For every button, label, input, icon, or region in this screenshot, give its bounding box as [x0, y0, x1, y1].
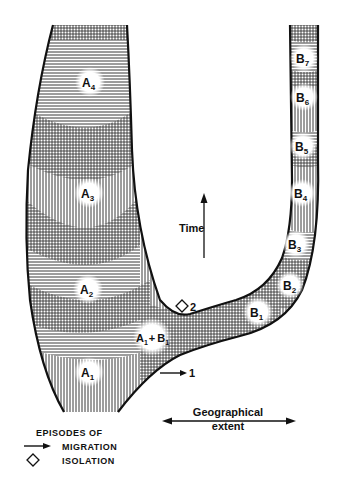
svg-text:2: 2 — [190, 301, 196, 313]
diamond-icon — [27, 454, 39, 466]
isolation-event-2: 2 — [176, 300, 196, 313]
arrow-right-icon — [43, 443, 51, 449]
legend-icons — [24, 443, 51, 466]
legend-label-isolation: ISOLATION — [62, 456, 115, 466]
time-axis-label: Time — [179, 222, 204, 234]
geographic-axis-label: Geographical extent — [160, 406, 296, 432]
diamond-icon — [176, 300, 188, 312]
legend-title: EPISODES OF — [36, 428, 103, 438]
label-junction-a1-b1: A1+B1 — [136, 332, 169, 346]
svg-text:1: 1 — [189, 367, 195, 379]
geo-label-line1: Geographical — [160, 406, 296, 418]
arrow-up-icon — [201, 193, 208, 203]
migration-event-1: 1 — [160, 367, 195, 379]
arrow-right-icon — [180, 370, 187, 376]
geo-label-line2: extent — [160, 420, 296, 432]
legend-label-migration: MIGRATION — [62, 442, 117, 452]
